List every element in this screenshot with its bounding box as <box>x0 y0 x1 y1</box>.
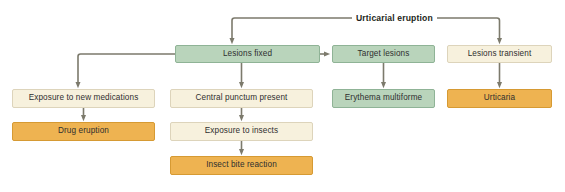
node-insect-bite-reaction[interactable]: Insect bite reaction <box>170 156 313 175</box>
node-label: Exposure to new medications <box>29 94 139 102</box>
node-label: Target lesions <box>358 50 410 58</box>
node-label: Lesions fixed <box>223 50 272 58</box>
edge-root-left-stub <box>232 18 352 24</box>
node-target-lesions[interactable]: Target lesions <box>332 45 435 63</box>
node-label: Urticaria <box>484 94 515 102</box>
node-label: Insect bite reaction <box>206 161 277 169</box>
node-central-punctum-present[interactable]: Central punctum present <box>170 89 313 108</box>
node-label: Central punctum present <box>196 94 288 102</box>
node-exposure-to-insects[interactable]: Exposure to insects <box>170 122 313 141</box>
node-lesions-fixed[interactable]: Lesions fixed <box>175 45 320 63</box>
node-drug-eruption[interactable]: Drug eruption <box>12 122 155 141</box>
node-lesions-transient[interactable]: Lesions transient <box>447 45 552 63</box>
node-exposure-to-new-medications[interactable]: Exposure to new medications <box>12 89 155 108</box>
root-node-label: Urticarial eruption <box>356 14 433 23</box>
node-urticaria[interactable]: Urticaria <box>447 89 552 108</box>
flowchart-canvas: Urticarial eruption Lesions fixed Target… <box>0 0 565 192</box>
node-label: Erythema multiforme <box>345 94 422 102</box>
edge-lesions-fixed-to-exposure-medications <box>78 54 175 85</box>
node-label: Drug eruption <box>58 127 109 135</box>
node-erythema-multiforme[interactable]: Erythema multiforme <box>332 89 435 108</box>
node-label: Exposure to insects <box>205 127 278 135</box>
edge-root-right-stub <box>437 18 500 41</box>
node-label: Lesions transient <box>468 50 532 58</box>
